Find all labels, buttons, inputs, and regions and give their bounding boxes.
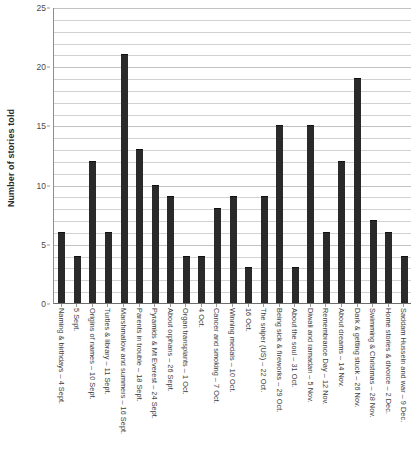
x-axis-tick-mark	[201, 304, 202, 307]
x-label-slot: Cancer and smoking – 7 Oct.	[209, 308, 225, 453]
x-label-slot: About dreams – 14 Nov.	[333, 308, 349, 453]
bar-slot	[179, 8, 195, 303]
x-axis-tick-mark	[216, 304, 217, 307]
bar[interactable]	[307, 125, 314, 303]
bar[interactable]	[261, 196, 268, 303]
bar[interactable]	[276, 125, 283, 303]
x-axis-tick-label: Parents in trouble – 18 Sept.	[135, 308, 142, 402]
bar-chart: Number of stories told 0510152025 Naming…	[0, 0, 417, 453]
x-axis-tick-mark	[388, 304, 389, 307]
bar[interactable]	[385, 232, 392, 303]
x-axis-tick-mark	[403, 304, 404, 307]
bar[interactable]	[370, 220, 377, 303]
bar[interactable]	[58, 232, 65, 303]
x-axis-tick-mark	[248, 304, 249, 307]
y-axis-tick-label: 10	[37, 181, 46, 191]
bar[interactable]	[152, 185, 159, 303]
x-axis-tick-label: About the soul – 31 Oct.	[291, 308, 298, 387]
bar[interactable]	[338, 161, 345, 303]
y-axis-tick-mark	[47, 67, 50, 68]
plot-area	[53, 8, 411, 304]
bar[interactable]	[354, 78, 361, 303]
bar[interactable]	[198, 256, 205, 303]
x-axis-tick-label: Cancer and smoking – 7 Oct.	[213, 308, 220, 404]
x-label-slot: Saddam Hussein and war – 9 Dec.	[395, 308, 411, 453]
bar-slot	[101, 8, 117, 303]
x-label-slot: About orphans – 26 Sept.	[162, 308, 178, 453]
x-axis-tick-label: Saddam Hussein and war – 9 Dec.	[400, 308, 407, 422]
x-axis-tick-mark	[107, 304, 108, 307]
bar[interactable]	[214, 208, 221, 303]
y-axis-tick-mark	[47, 126, 50, 127]
x-axis-tick-label: 16 Oct.	[244, 308, 251, 332]
bar-slot	[272, 8, 288, 303]
x-axis-tick-mark	[92, 304, 93, 307]
bar-slot	[85, 8, 101, 303]
x-axis-tick-label: The sniper (US) – 22 Oct.	[259, 308, 266, 392]
x-axis-tick-label: Pyramids & Mt Everest – 24 Sept.	[150, 308, 157, 419]
x-label-slot: 16 Oct.	[240, 308, 256, 453]
x-axis-tick-mark	[170, 304, 171, 307]
bar[interactable]	[401, 256, 408, 303]
bar[interactable]	[292, 267, 299, 303]
y-axis-tick-label: 15	[37, 121, 46, 131]
x-label-slot: Being sick & fireworks – 29 Oct.	[271, 308, 287, 453]
x-axis-tick-label: 5 Sept.	[73, 308, 80, 331]
x-axis-tick-label: 4 Oct.	[197, 308, 204, 328]
x-axis-tick-mark	[263, 304, 264, 307]
x-axis-tick-mark	[372, 304, 373, 307]
bar-slot	[334, 8, 350, 303]
x-label-slot: Organ transplants – 1 Oct.	[178, 308, 194, 453]
y-axis-tick-mark	[47, 304, 50, 305]
bar[interactable]	[136, 149, 143, 303]
x-axis-tick-label: Remembrance Day – 12 Nov.	[322, 308, 329, 405]
x-axis-tick-mark	[310, 304, 311, 307]
x-label-slot: Origins of names – 10 Sept.	[84, 308, 100, 453]
bar[interactable]	[245, 267, 252, 303]
bar[interactable]	[121, 54, 128, 303]
bar-slot	[70, 8, 86, 303]
bar-slot	[319, 8, 335, 303]
x-axis-tick-mark	[325, 304, 326, 307]
y-axis-tick-mark	[47, 8, 50, 9]
bar[interactable]	[323, 232, 330, 303]
x-axis-tick-label: Swimming & Christmas – 28 Nov.	[368, 308, 375, 418]
bar[interactable]	[74, 256, 81, 303]
y-axis-tick-mark	[47, 244, 50, 245]
x-label-slot: Winning medals – 10 Oct.	[224, 308, 240, 453]
bar-slot	[303, 8, 319, 303]
x-axis-tick-mark	[139, 304, 140, 307]
bar[interactable]	[105, 232, 112, 303]
bar[interactable]	[89, 161, 96, 303]
bar-slot	[210, 8, 226, 303]
x-label-slot: Naming & birthdays – 4 Sept.	[53, 308, 69, 453]
y-axis-tick-labels: 0510152025	[22, 8, 50, 304]
x-axis-tick-label: Marshmallow and summers – 16 Sept.	[119, 308, 126, 434]
x-axis-tick-mark	[123, 304, 124, 307]
x-axis-tick-label: About dreams – 14 Nov.	[337, 308, 344, 387]
x-axis-tick-label: Organ transplants – 1 Oct.	[182, 308, 189, 395]
x-axis-tick-mark	[232, 304, 233, 307]
x-axis-tick-mark	[357, 304, 358, 307]
bar[interactable]	[167, 196, 174, 303]
bar-slot	[116, 8, 132, 303]
x-axis-tick-mark	[279, 304, 280, 307]
y-axis-tick-label: 5	[41, 240, 46, 250]
y-axis-tick-label: 0	[41, 299, 46, 309]
bar[interactable]	[230, 196, 237, 303]
bar-slot	[54, 8, 70, 303]
bar-slot	[396, 8, 412, 303]
x-label-slot: Swimming & Christmas – 28 Nov.	[364, 308, 380, 453]
bar-slot	[132, 8, 148, 303]
x-label-slot: 5 Sept.	[69, 308, 85, 453]
x-label-slot: Marshmallow and summers – 16 Sept.	[115, 308, 131, 453]
y-axis-tick-mark	[47, 185, 50, 186]
x-label-slot: The sniper (US) – 22 Oct.	[255, 308, 271, 453]
x-axis-tick-label: Diwali and ramadan – 5 Nov.	[306, 308, 313, 402]
y-axis-title: Number of stories told	[0, 0, 22, 315]
bar-slot	[225, 8, 241, 303]
y-axis-tick-label: 20	[37, 62, 46, 72]
x-axis-tick-label: Naming & birthdays – 4 Sept.	[57, 308, 64, 404]
x-label-slot: 4 Oct.	[193, 308, 209, 453]
bar[interactable]	[183, 256, 190, 303]
